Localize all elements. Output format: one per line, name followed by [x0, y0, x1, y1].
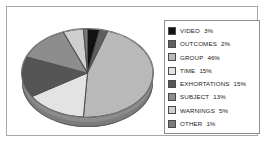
legend-value-warnings: 5% [219, 104, 228, 117]
legend-label-video: VIDEO [180, 24, 200, 37]
legend-swatch-video [168, 27, 176, 35]
legend-value-video: 3% [204, 24, 213, 37]
legend-label-subject: SUBJECT [180, 90, 209, 103]
legend-item-group: GROUP 46% [168, 51, 259, 64]
legend-label-time: TIME [180, 64, 195, 77]
legend-value-outcomes: 2% [221, 37, 230, 50]
pie-top-face [22, 29, 153, 117]
pie-slices-svg [22, 29, 153, 117]
legend-label-group: GROUP [180, 51, 203, 64]
legend-swatch-group [168, 53, 176, 61]
legend-item-other: OTHER 1% [168, 117, 259, 130]
legend-label-outcomes: OUTCOMES [180, 37, 217, 50]
legend-label-warnings: WARNINGS [180, 104, 215, 117]
legend-swatch-exhortations [168, 80, 176, 88]
pie-chart [21, 25, 156, 137]
legend-item-time: TIME 15% [168, 64, 259, 77]
legend-label-other: OTHER [180, 117, 202, 130]
legend-item-subject: SUBJECT 13% [168, 90, 259, 103]
legend-value-time: 15% [199, 64, 211, 77]
legend-swatch-subject [168, 93, 176, 101]
legend-value-exhortations: 15% [234, 77, 246, 90]
legend-item-outcomes: OUTCOMES 2% [168, 37, 259, 50]
legend-swatch-other [168, 120, 176, 128]
legend-value-group: 46% [207, 51, 219, 64]
legend-swatch-warnings [168, 106, 176, 114]
legend-value-other: 1% [206, 117, 215, 130]
legend-value-subject: 13% [213, 90, 225, 103]
legend-swatch-time [168, 67, 176, 75]
legend-item-video: VIDEO 3% [168, 24, 259, 37]
legend-label-exhortations: EXHORTATIONS [180, 77, 230, 90]
chart-figure: VIDEO 3% OUTCOMES 2% GROUP 46% TIME 15% [0, 0, 266, 144]
chart-legend: VIDEO 3% OUTCOMES 2% GROUP 46% TIME 15% [164, 20, 260, 134]
legend-swatch-outcomes [168, 40, 176, 48]
legend-item-warnings: WARNINGS 5% [168, 104, 259, 117]
figure-frame: VIDEO 3% OUTCOMES 2% GROUP 46% TIME 15% [6, 6, 258, 136]
legend-item-exhortations: EXHORTATIONS 15% [168, 77, 259, 90]
